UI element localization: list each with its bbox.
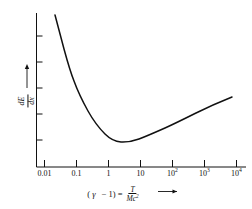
x-tick-label-text: 10 — [137, 169, 145, 178]
y-axis-ticks — [37, 36, 43, 140]
x-tick-label-exponent: 3 — [207, 167, 210, 173]
x-tick-label-text: 10 — [199, 169, 207, 178]
x-tick-label-1: 0.1 — [72, 169, 82, 178]
x-axis-title-fraction-denominator-exponent: 2 — [136, 192, 139, 198]
x-tick-label-6: 104 — [231, 169, 242, 178]
x-axis-title: (γ − 1) = T Mc2 — [87, 186, 164, 203]
x-axis-title-minus-one: − 1) — [102, 189, 116, 199]
x-tick-label-text: 1 — [107, 169, 111, 178]
x-tick-label-2: 1 — [107, 169, 111, 178]
x-axis-title-open-paren: ( — [87, 189, 90, 199]
x-tick-label-text: 0.1 — [72, 169, 82, 178]
x-axis-title-equals: = — [118, 189, 123, 199]
x-tick-label-text: 0.01 — [38, 169, 52, 178]
x-axis-title-gamma: γ — [92, 189, 95, 199]
x-axis-title-fraction-denominator-base: Mc — [126, 194, 136, 203]
figure-energy-loss-chart: dE dx 0.01 0.1 1 10 102 103 104 (γ − 1) … — [0, 0, 252, 209]
y-axis-title-fraction: dE dx — [18, 95, 36, 108]
x-tick-label-0: 0.01 — [38, 169, 52, 178]
y-axis-title-denominator: dx — [27, 95, 36, 107]
x-tick-label-exponent: 2 — [175, 167, 178, 173]
x-axis-title-fraction-denominator: Mc2 — [124, 194, 140, 202]
x-tick-label-5: 103 — [199, 169, 210, 178]
x-axis-ticks — [45, 160, 237, 167]
y-axis-title-numerator: dE — [18, 95, 28, 108]
x-tick-label-4: 102 — [167, 169, 178, 178]
y-axis-title: dE dx — [16, 92, 38, 110]
x-tick-label-text: 10 — [167, 169, 175, 178]
x-axis-title-arrow-spacer — [143, 191, 165, 197]
x-tick-label-3: 10 — [137, 169, 145, 178]
y-axis-arrow-icon — [22, 62, 32, 88]
x-axis-title-fraction: T Mc2 — [124, 186, 140, 203]
x-tick-label-text: 10 — [231, 169, 239, 178]
x-tick-label-exponent: 4 — [239, 167, 242, 173]
data-curve-dedx — [55, 15, 232, 142]
